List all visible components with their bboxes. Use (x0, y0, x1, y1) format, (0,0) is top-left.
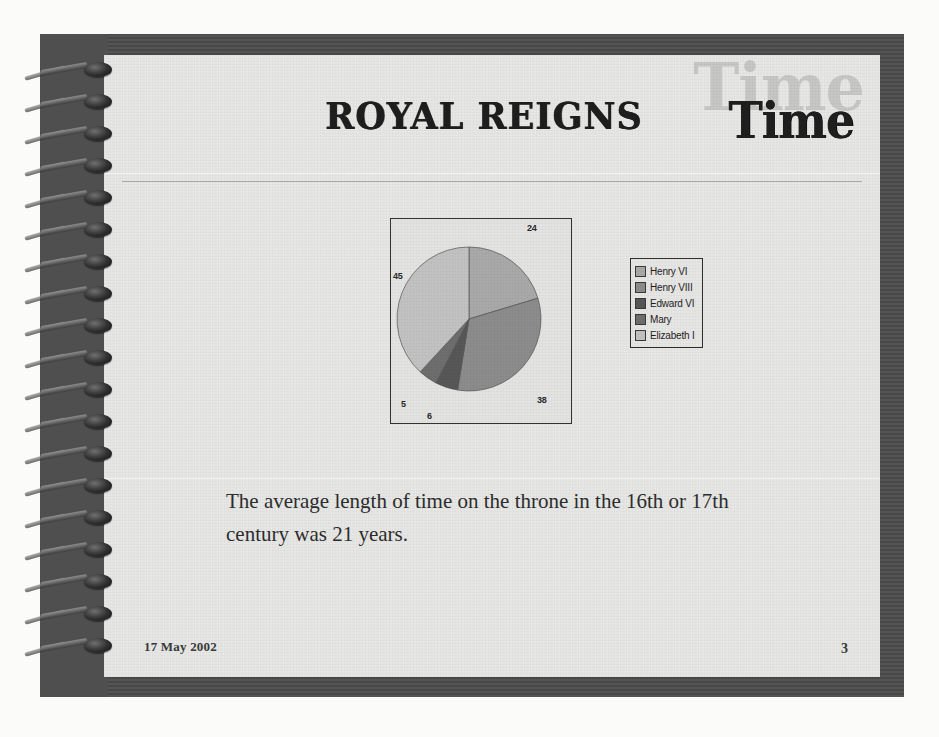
time-logo-text: Time (728, 90, 854, 149)
pie-data-label: 24 (527, 223, 536, 233)
legend-swatch-icon (635, 330, 646, 341)
chart-legend: Henry VIHenry VIIIEdward VIMaryElizabeth… (630, 258, 703, 348)
slide-page-number: 3 (841, 641, 848, 657)
screenshot-root: ROYAL REIGNS Time Time 24386545 Henry VI… (0, 0, 939, 737)
pie-data-label: 6 (427, 411, 432, 421)
pie-data-label: 45 (393, 271, 402, 281)
pie-data-label: 38 (537, 395, 546, 405)
title-rule (122, 181, 862, 182)
header-divider (104, 173, 880, 174)
legend-label: Mary (650, 314, 671, 325)
legend-label: Henry VI (650, 266, 687, 277)
legend-label: Edward VI (650, 298, 694, 309)
legend-swatch-icon (635, 266, 646, 277)
legend-item: Henry VI (635, 263, 695, 279)
page-title: ROYAL REIGNS (224, 94, 744, 137)
legend-item: Elizabeth I (635, 327, 695, 343)
legend-swatch-icon (635, 282, 646, 293)
legend-swatch-icon (635, 298, 646, 309)
legend-label: Elizabeth I (650, 330, 695, 341)
legend-item: Henry VIII (635, 279, 695, 295)
legend-swatch-icon (635, 314, 646, 325)
time-logo: Time Time (682, 57, 872, 167)
slide-page: ROYAL REIGNS Time Time 24386545 Henry VI… (104, 55, 880, 677)
pie-data-label: 5 (401, 399, 406, 409)
slide-date: 17 May 2002 (144, 639, 217, 655)
pie-chart: 24386545 (390, 218, 572, 424)
pie-chart-svg (391, 219, 571, 423)
legend-item: Mary (635, 311, 695, 327)
legend-item: Edward VI (635, 295, 695, 311)
body-divider (104, 478, 880, 479)
body-text: The average length of time on the throne… (226, 485, 786, 551)
legend-label: Henry VIII (650, 282, 692, 293)
